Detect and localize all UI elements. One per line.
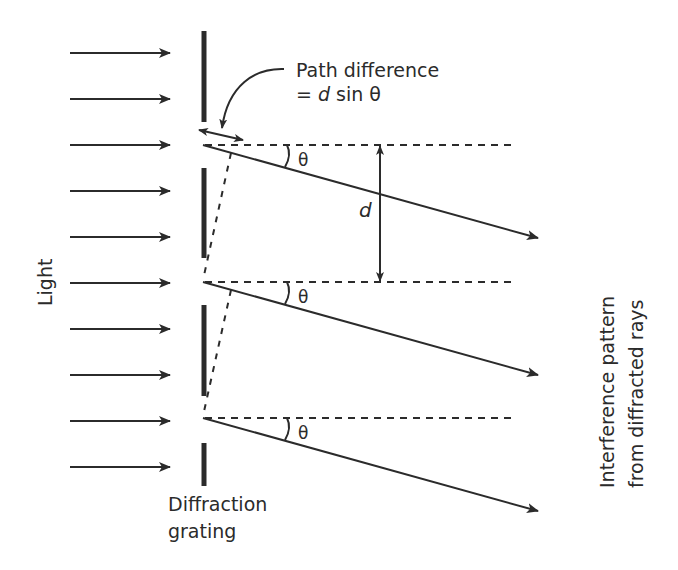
equation-suffix: sin θ bbox=[330, 83, 381, 105]
path-difference-label: Path difference bbox=[296, 59, 439, 81]
theta-label: θ bbox=[298, 150, 308, 170]
equation-d: d bbox=[318, 83, 331, 105]
grating-label-line1: Diffraction bbox=[168, 493, 267, 515]
theta-label: θ bbox=[298, 423, 308, 443]
theta-arc bbox=[285, 282, 289, 304]
theta-arc bbox=[285, 145, 289, 167]
light-label: Light bbox=[34, 259, 56, 306]
interference-label-line1: Interference pattern bbox=[596, 296, 618, 488]
incident-rays bbox=[70, 53, 170, 467]
equation-prefix: = bbox=[296, 83, 318, 105]
diagram-canvas: Path difference = d sin θ θ θ θ d Diffra… bbox=[0, 0, 678, 570]
path-difference-equation: = d sin θ bbox=[296, 83, 381, 105]
slit-spacing-label: d bbox=[359, 198, 372, 222]
diffraction-diagram: Path difference = d sin θ θ θ θ d Diffra… bbox=[0, 0, 678, 570]
diffracted-ray bbox=[203, 282, 538, 375]
angle-arcs bbox=[285, 145, 289, 440]
normal-reference-lines bbox=[205, 145, 512, 418]
dashed-wavefront bbox=[203, 290, 231, 416]
theta-label: θ bbox=[298, 287, 308, 307]
interference-label-line2: from diffracted rays bbox=[625, 300, 647, 488]
wavefront-lines bbox=[203, 153, 231, 416]
diffracted-ray bbox=[203, 145, 538, 238]
dashed-wavefront bbox=[203, 153, 231, 280]
path-difference-arrow bbox=[199, 130, 243, 140]
theta-arc bbox=[285, 418, 289, 440]
grating-label-line2: grating bbox=[168, 520, 236, 542]
path-difference-pointer bbox=[222, 69, 284, 128]
